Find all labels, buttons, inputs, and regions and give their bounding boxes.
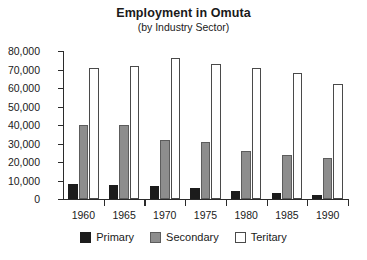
bar-primary-1990 xyxy=(312,195,322,199)
bar-teritary-1965 xyxy=(130,66,140,199)
bar-primary-1960 xyxy=(68,184,78,199)
bar-secondary-1970 xyxy=(160,140,170,199)
y-axis-tick xyxy=(58,162,63,163)
y-axis-label: 20,000 xyxy=(0,156,40,168)
y-axis-tick xyxy=(58,51,63,52)
bar-secondary-1990 xyxy=(323,158,333,199)
bar-teritary-1985 xyxy=(293,73,303,199)
bar-teritary-1990 xyxy=(333,84,343,199)
chart-subtitle: (by Industry Sector) xyxy=(0,21,367,34)
employment-bar-chart: Employment in Omuta (by Industry Sector)… xyxy=(0,0,367,260)
y-axis-tick xyxy=(58,144,63,145)
y-axis-tick xyxy=(58,107,63,108)
x-axis-line xyxy=(63,199,349,200)
bar-primary-1980 xyxy=(231,191,241,199)
y-axis-tick xyxy=(58,70,63,71)
bar-teritary-1975 xyxy=(211,64,221,199)
y-axis-label: 80,000 xyxy=(0,45,40,57)
bar-secondary-1980 xyxy=(241,151,251,199)
legend-item-secondary[interactable]: Secondary xyxy=(150,231,219,243)
y-axis-label: 0 xyxy=(0,193,40,205)
y-axis-label: 10,000 xyxy=(0,175,40,187)
bar-primary-1970 xyxy=(150,186,160,199)
y-axis-tick xyxy=(58,199,63,200)
page-title: Employment in Omuta xyxy=(0,6,367,21)
legend-swatch-teritary-icon xyxy=(235,232,246,243)
legend-item-teritary[interactable]: Teritary xyxy=(235,231,287,243)
y-axis-label: 70,000 xyxy=(0,64,40,76)
bar-secondary-1965 xyxy=(119,125,129,199)
y-axis-label: 30,000 xyxy=(0,138,40,150)
bar-primary-1975 xyxy=(190,188,200,199)
x-axis-tick xyxy=(267,200,268,206)
bar-secondary-1960 xyxy=(79,125,89,199)
x-axis-tick xyxy=(144,200,145,206)
x-axis-tick xyxy=(104,200,105,206)
x-axis-tick xyxy=(348,200,349,206)
y-axis-label: 60,000 xyxy=(0,82,40,94)
y-axis-label: 40,000 xyxy=(0,119,40,131)
bar-primary-1985 xyxy=(272,193,282,199)
x-axis-label-1990: 1990 xyxy=(303,209,353,221)
chart-legend: PrimarySecondaryTeritary xyxy=(0,231,367,243)
plot-area: 80,00070,00060,00050,00040,00030,00020,0… xyxy=(63,51,348,199)
y-axis-tick xyxy=(58,88,63,89)
chart-title-block: Employment in Omuta (by Industry Sector) xyxy=(0,6,367,34)
legend-label: Secondary xyxy=(166,231,219,243)
bar-secondary-1975 xyxy=(201,142,211,199)
bar-secondary-1985 xyxy=(282,155,292,199)
bar-teritary-1960 xyxy=(89,68,99,199)
y-axis-tick xyxy=(58,125,63,126)
legend-label: Primary xyxy=(96,231,134,243)
legend-item-primary[interactable]: Primary xyxy=(80,231,134,243)
x-axis-tick xyxy=(226,200,227,206)
y-axis-tick xyxy=(58,181,63,182)
bar-primary-1965 xyxy=(109,185,119,199)
legend-swatch-primary-icon xyxy=(80,232,91,243)
bar-teritary-1980 xyxy=(252,68,262,199)
x-axis-tick xyxy=(307,200,308,206)
bar-teritary-1970 xyxy=(171,58,181,199)
legend-label: Teritary xyxy=(251,231,287,243)
x-axis-tick xyxy=(185,200,186,206)
y-axis-label: 50,000 xyxy=(0,101,40,113)
legend-swatch-secondary-icon xyxy=(150,232,161,243)
